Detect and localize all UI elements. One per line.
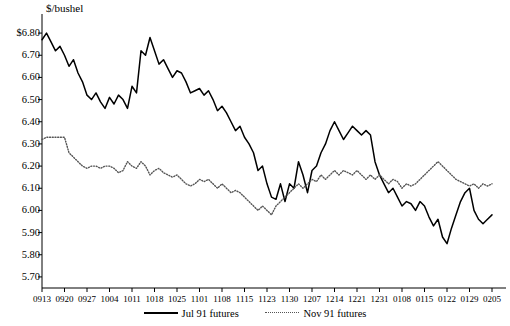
legend-item-jul-91-futures: Jul 91 futures — [144, 307, 239, 319]
series-line-jul-91-futures — [42, 33, 492, 244]
plot-area — [0, 0, 510, 326]
y-axis-tick-label: 6.00 — [0, 205, 40, 215]
x-axis-tick-label: 0205 — [472, 294, 510, 304]
legend-item-nov-91-futures: Nov 91 futures — [265, 307, 366, 319]
y-axis-tick-label: 5.80 — [0, 250, 40, 260]
y-axis-tick-label: 6.60 — [0, 72, 40, 82]
y-axis-title: $/bushel — [46, 2, 83, 14]
series-line-nov-91-futures — [42, 137, 492, 215]
y-axis-tick-label: 5.70 — [0, 272, 40, 282]
legend-label-jul: Jul 91 futures — [182, 308, 239, 319]
legend-swatch-solid-icon — [144, 309, 178, 317]
chart-legend: Jul 91 futures Nov 91 futures — [0, 306, 510, 319]
legend-swatch-dotted-icon — [265, 309, 299, 317]
y-axis-tick-label: 6.70 — [0, 50, 40, 60]
y-axis-tick-label: 6.40 — [0, 117, 40, 127]
y-axis-tick-label: 6.50 — [0, 95, 40, 105]
y-axis-tick-label: 6.10 — [0, 183, 40, 193]
y-axis-tick-label: 6.20 — [0, 161, 40, 171]
futures-price-chart: $/bushel $6.806.706.606.506.406.306.206.… — [0, 0, 510, 326]
y-axis-tick-label: $6.80 — [0, 28, 40, 38]
y-axis-tick-label: 6.30 — [0, 139, 40, 149]
legend-label-nov: Nov 91 futures — [303, 308, 366, 319]
y-axis-tick-label: 5.90 — [0, 228, 40, 238]
